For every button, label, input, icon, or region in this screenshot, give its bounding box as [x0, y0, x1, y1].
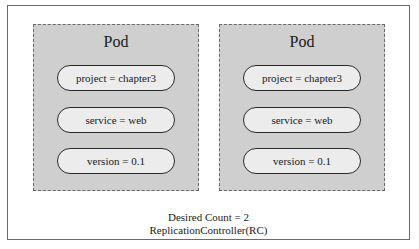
controller-name-label: ReplicationController(RC)	[7, 223, 410, 237]
pod-title: Pod	[220, 33, 384, 51]
label-version: version = 0.1	[243, 148, 361, 174]
pod-1: Pod project = chapter3 service = web ver…	[33, 24, 199, 191]
label-service: service = web	[243, 107, 361, 133]
label-project: project = chapter3	[57, 65, 175, 91]
pod-title: Pod	[34, 33, 198, 51]
desired-count-label: Desired Count = 2	[7, 210, 410, 224]
label-project: project = chapter3	[243, 65, 361, 91]
label-version: version = 0.1	[57, 148, 175, 174]
label-service: service = web	[57, 107, 175, 133]
pod-2: Pod project = chapter3 service = web ver…	[219, 24, 385, 191]
